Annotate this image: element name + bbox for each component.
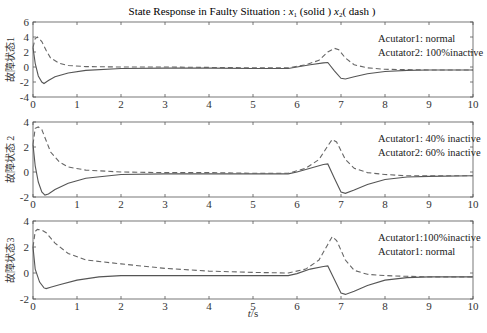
x-tick-label: 4 [206, 98, 212, 110]
x-tick-label: 5 [250, 98, 256, 110]
x-tick-label: 1 [74, 98, 80, 110]
y-axis-label: 故障状态 2 [4, 136, 16, 184]
y-tick-label: 4 [24, 31, 30, 43]
y-tick-label: 2 [24, 241, 30, 253]
y-tick-label: 4 [24, 215, 30, 227]
annotation: Acutator2: 100%inactive [378, 47, 484, 58]
x-tick-label: 3 [162, 98, 168, 110]
chart-title: State Response in Faulty Situation : x1 … [129, 5, 376, 19]
x-tick-label: 2 [118, 198, 124, 210]
x-tick-label: 6 [294, 198, 300, 210]
x-tick-label: 7 [338, 98, 344, 110]
x-tick-label: 10 [468, 300, 480, 312]
x-tick-label: 3 [162, 198, 168, 210]
x-tick-label: 1 [74, 300, 80, 312]
x-tick-label: 6 [294, 300, 300, 312]
y-tick-label: 2 [24, 46, 30, 58]
x-tick-label: 9 [426, 300, 432, 312]
y-axis-label: 故障状态3 [4, 238, 16, 283]
y-tick-label: 4 [24, 116, 30, 128]
x-tick-label: 8 [382, 198, 388, 210]
y-tick-label: -2 [20, 191, 29, 203]
x-tick-label: 1 [74, 198, 80, 210]
y-tick-label: 0 [24, 267, 30, 279]
x-tick-label: 5 [250, 198, 256, 210]
x-tick-label: 2 [118, 300, 124, 312]
x-tick-label: 4 [206, 198, 212, 210]
subplots: 012345678910-4-20246故障状态1Acutator1: norm… [4, 16, 484, 312]
x-tick-label: 2 [118, 98, 124, 110]
y-tick-label: 0 [24, 61, 30, 73]
y-tick-label: -4 [20, 91, 30, 103]
x-tick-label: 9 [426, 198, 432, 210]
x-tick-label: 0 [30, 98, 36, 110]
x-tick-label: 0 [30, 300, 36, 312]
y-tick-label: -2 [20, 76, 29, 88]
y-tick-label: 6 [24, 16, 30, 28]
x-tick-label: 0 [30, 198, 36, 210]
x-tick-label: 10 [468, 98, 480, 110]
y-tick-label: -2 [20, 293, 29, 305]
x-tick-label: 7 [338, 198, 344, 210]
annotation: Acutator1: normal [378, 246, 455, 257]
x-axis-label: t/s [248, 307, 258, 319]
state-response-chart: State Response in Faulty Situation : x1 … [0, 0, 487, 333]
x-tick-label: 9 [426, 98, 432, 110]
y-tick-label: 0 [24, 166, 30, 178]
x-tick-label: 8 [382, 98, 388, 110]
x-tick-label: 6 [294, 98, 300, 110]
x-tick-label: 10 [468, 198, 480, 210]
annotation: Acutator2: 60% inactive [378, 147, 481, 158]
subplot-2: 012345678910-2024故障状态 2Acutator1: 40% in… [4, 116, 481, 210]
x-tick-label: 4 [206, 300, 212, 312]
annotation: Acutator1:100%inactive [378, 232, 481, 243]
x-tick-label: 3 [162, 300, 168, 312]
x-tick-label: 7 [338, 300, 344, 312]
annotation: Acutator1: normal [378, 33, 455, 44]
annotation: Acutator1: 40% inactive [378, 133, 481, 144]
y-axis-label: 故障状态1 [4, 37, 16, 82]
x-tick-label: 8 [382, 300, 388, 312]
subplot-3: 012345678910-2024故障状态3Acutator1:100%inac… [4, 215, 481, 312]
subplot-1: 012345678910-4-20246故障状态1Acutator1: norm… [4, 16, 484, 110]
y-tick-label: 2 [24, 141, 30, 153]
